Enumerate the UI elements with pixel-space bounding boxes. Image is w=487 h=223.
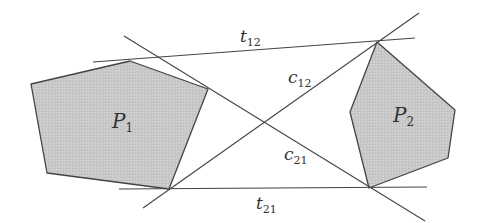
line-label-c21: c21 [284,144,308,167]
line-label-t12: t12 [240,26,261,49]
tangent-diagram: P1P2t12t21c12c21 [0,0,487,223]
polygons-layer [31,42,455,189]
line-label-t21: t21 [256,193,277,216]
diagram-canvas: P1P2t12t21c12c21 [0,0,487,223]
line-label-c12: c12 [288,67,312,90]
